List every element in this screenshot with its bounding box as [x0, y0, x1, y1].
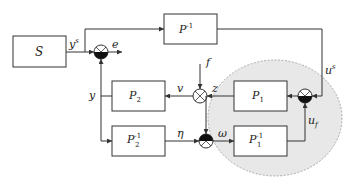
- sum-junction-v: [193, 89, 207, 103]
- signal-f-label: f: [205, 56, 212, 69]
- signal-us-label: us: [325, 63, 336, 77]
- signal-ys-label: ys: [68, 37, 79, 51]
- block-p-inverse: P-1: [164, 14, 217, 44]
- signal-z-label: z: [211, 82, 218, 95]
- sum-junction-u: [298, 89, 312, 103]
- signal-e-label: e: [112, 38, 119, 51]
- signal-v-label: v: [177, 82, 184, 95]
- signal-eta-label: η: [177, 127, 184, 140]
- block-s: S: [13, 36, 66, 67]
- block-p1-inverse: P-11: [234, 126, 287, 156]
- block-p1: P1: [234, 81, 287, 111]
- sum-junction-error: [94, 45, 108, 59]
- signal-omega-label: ω: [218, 127, 227, 140]
- sum-junction-omega: [199, 134, 213, 148]
- block-diagram: S P-1 P2 P-12 P1 P-11: [0, 0, 345, 183]
- signal-y-label: y: [88, 89, 96, 102]
- block-p2: P2: [112, 81, 165, 111]
- block-s-label: S: [35, 45, 43, 59]
- block-p2-inverse: P-12: [112, 126, 165, 156]
